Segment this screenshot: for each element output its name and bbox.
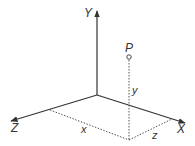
z-axis-label: Z [10,121,19,135]
y-axis-label: Y [84,6,93,20]
coordinate-diagram: Y Z X P y x z [0,0,195,146]
point-p-label: P [125,41,133,55]
point-p-marker [127,55,131,59]
dashed-x-projection [50,110,129,140]
x-component-label: x [80,123,87,135]
x-axis-label: X [176,122,186,136]
y-component-label: y [131,84,139,96]
z-axis [11,95,97,121]
z-component-label: z [151,129,158,141]
dashed-z-projection [129,119,172,140]
x-axis [97,95,185,123]
